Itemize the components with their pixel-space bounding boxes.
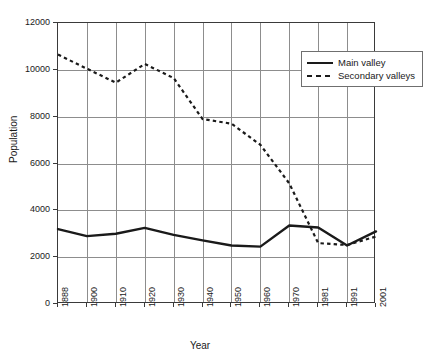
legend-item: Secondary valleys — [307, 69, 415, 82]
x-axis-title: Year — [0, 340, 400, 351]
x-tick-label: 2001 — [379, 287, 388, 307]
x-tick-label: 1970 — [292, 287, 301, 307]
x-tick-mark — [346, 303, 347, 307]
x-tick-label: 1950 — [234, 287, 243, 307]
dashed-line-icon — [307, 71, 333, 81]
plot-area: Main valleySecondary valleys — [57, 22, 375, 303]
x-tick-label: 1991 — [350, 287, 359, 307]
legend-item: Main valley — [307, 56, 415, 69]
x-tick-mark — [173, 303, 174, 307]
x-tick-mark — [144, 303, 145, 307]
x-tick-label: 1940 — [206, 287, 215, 307]
x-tick-mark — [259, 303, 260, 307]
y-tick-label: 2000 — [30, 252, 50, 261]
x-tick-label: 1981 — [321, 287, 330, 307]
x-tick-label: 1888 — [61, 287, 70, 307]
chart-legend: Main valleySecondary valleys — [301, 51, 423, 87]
solid-line-icon — [307, 58, 333, 68]
y-tick-label: 6000 — [30, 158, 50, 167]
x-tick-mark — [115, 303, 116, 307]
x-tick-label: 1930 — [177, 287, 186, 307]
x-tick-mark — [375, 303, 376, 307]
x-tick-mark — [317, 303, 318, 307]
x-tick-label: 1920 — [148, 287, 157, 307]
x-tick-mark — [202, 303, 203, 307]
x-tick-mark — [86, 303, 87, 307]
x-tick-mark — [288, 303, 289, 307]
x-tick-mark — [57, 303, 58, 307]
y-tick-label: 4000 — [30, 205, 50, 214]
x-tick-mark — [230, 303, 231, 307]
y-tick-label: 8000 — [30, 111, 50, 120]
legend-label: Secondary valleys — [338, 71, 415, 81]
y-tick-label: 12000 — [25, 18, 50, 27]
x-tick-label: 1960 — [263, 287, 272, 307]
x-tick-label: 1900 — [90, 287, 99, 307]
y-tick-label: 0 — [45, 299, 50, 308]
y-tick-label: 10000 — [25, 64, 50, 73]
y-axis-title: Population — [8, 116, 19, 163]
legend-label: Main valley — [338, 58, 386, 68]
x-tick-label: 1910 — [119, 287, 128, 307]
